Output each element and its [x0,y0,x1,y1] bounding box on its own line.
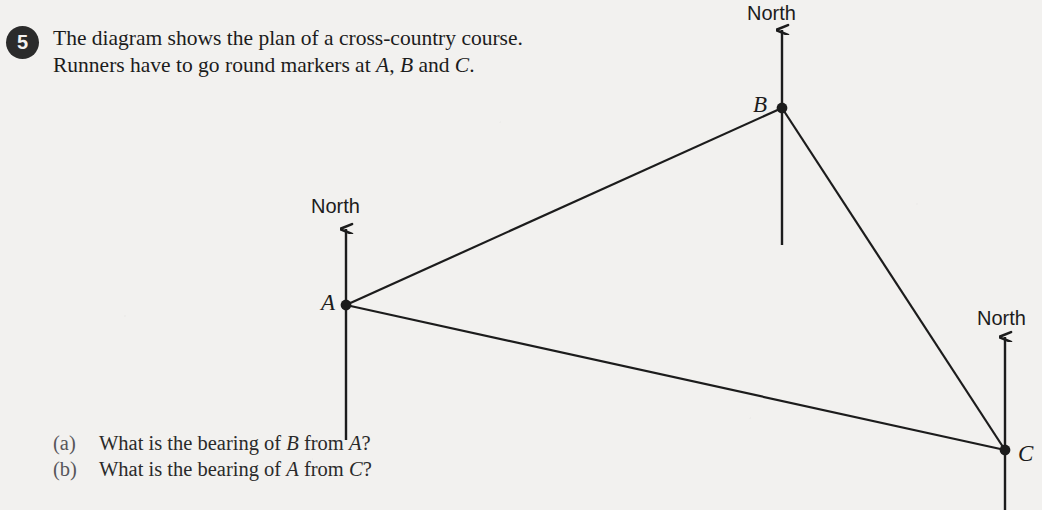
sub-question-a-sym2: A [349,432,362,454]
sub-question-a-sym1: B [286,432,299,454]
marker-label-A: A [321,290,335,316]
north-arrow-group [346,30,1005,510]
sub-question-b-sym1: A [286,458,299,480]
worksheet-page: 5 The diagram shows the plan of a cross-… [0,0,1042,510]
course-leg-A-B [346,108,782,305]
stem-sep-1: , [389,53,400,77]
sub-question-a-tag: (a) [53,430,99,456]
marker-dot-group [341,103,1011,456]
sub-question-b-end: ? [363,458,372,480]
north-label-C: North [977,307,1026,330]
marker-ref-a: A [376,53,389,77]
marker-dot-A [341,300,352,311]
marker-label-B: B [753,92,767,118]
sub-question-b: (b)What is the bearing of A from C? [53,456,372,482]
marker-ref-b: B [400,53,413,77]
question-number-value: 5 [17,31,28,54]
marker-label-C: C [1018,441,1033,467]
sub-question-a-mid: from [299,432,349,454]
question-stem: The diagram shows the plan of a cross-co… [53,25,693,79]
course-leg-group [346,108,1005,450]
north-label-A: North [311,195,360,218]
north-label-B: North [747,2,796,25]
course-leg-B-C [782,108,1005,450]
sub-question-b-text: What is the bearing of [99,458,286,480]
stem-period: . [469,53,474,77]
marker-dot-B [777,103,788,114]
sub-question-b-mid: from [299,458,349,480]
stem-sep-2: and [413,53,455,77]
marker-ref-c: C [455,53,469,77]
stem-line-2: Runners have to go round markers at A, B… [53,52,693,79]
sub-question-b-tag: (b) [53,456,99,482]
question-number-badge: 5 [6,26,39,59]
marker-dot-C [1000,445,1011,456]
sub-question-a-end: ? [361,432,370,454]
stem-line-1: The diagram shows the plan of a cross-co… [53,25,693,52]
sub-question-a-text: What is the bearing of [99,432,286,454]
course-leg-A-C [346,305,1005,450]
sub-question-b-sym2: C [349,458,363,480]
stem-line-2-text: Runners have to go round markers at [53,53,376,77]
sub-question-a: (a)What is the bearing of B from A? [53,430,371,456]
